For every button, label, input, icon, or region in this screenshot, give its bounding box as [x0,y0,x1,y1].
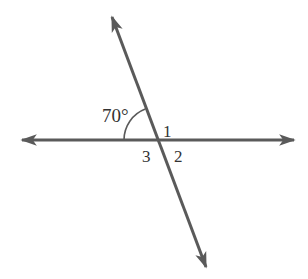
angle-1-label: 1 [163,122,172,141]
angle-3-label: 3 [142,147,151,166]
transversal-line [112,17,206,267]
intersecting-lines-diagram: 70° 1 3 2 [0,0,308,279]
angle-measure-label: 70° [102,105,129,126]
angle-2-label: 2 [174,147,183,166]
